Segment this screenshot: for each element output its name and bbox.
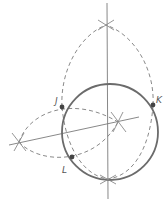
construction-arc-lower-left: [62, 107, 108, 179]
label-k: K: [156, 95, 163, 105]
intersection-mark-top: [98, 20, 114, 30]
main-circle: [62, 84, 158, 180]
point-j: [60, 105, 65, 110]
construction-arc-from-k: [62, 25, 106, 107]
construction-arc-upper-lens: [19, 108, 118, 142]
point-l: [70, 155, 75, 160]
construction-arc-from-j: [106, 25, 153, 105]
construction-arc-lower-right: [108, 105, 153, 179]
perpendicular-bisector-line: [107, 3, 108, 199]
bisector-line-jl: [9, 117, 139, 145]
geometric-construction-diagram: J K L: [0, 0, 166, 200]
label-l: L: [62, 165, 67, 175]
point-k: [151, 103, 156, 108]
label-j: J: [53, 96, 58, 106]
